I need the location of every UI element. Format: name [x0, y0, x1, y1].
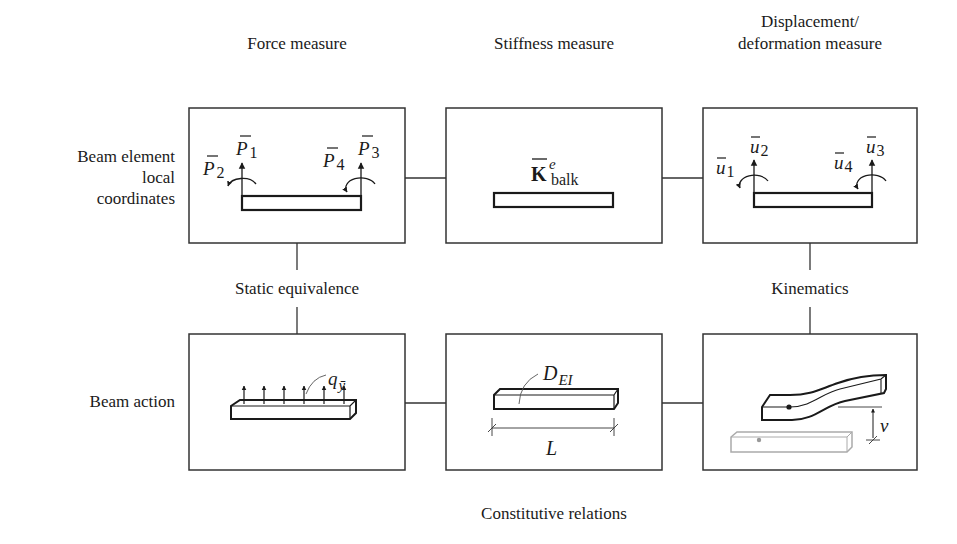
beam-element-icon	[242, 196, 361, 210]
symbol-p2: P2	[202, 158, 225, 181]
beam-element-icon	[494, 193, 613, 207]
deformed-beam-icon	[762, 375, 886, 420]
force-action-figure: qȳ	[231, 368, 356, 419]
beam-3d-icon	[494, 389, 618, 409]
force-local-figure: P1 P2 P3 P4	[202, 136, 380, 210]
beam-element-icon	[754, 193, 872, 207]
symbol-length-l: L	[545, 437, 557, 459]
symbol-k-sup: e	[549, 156, 556, 172]
symbol-d-ei: DEI	[542, 362, 574, 388]
symbol-k-balk: K	[531, 163, 547, 185]
displacement-local-figure: u1 u2 u3 u4	[716, 136, 886, 207]
beam-3d-icon	[231, 400, 356, 419]
symbol-k-sub: balk	[551, 171, 579, 188]
symbol-p1: P1	[235, 138, 258, 161]
stiffness-action-figure: DEI L	[488, 362, 618, 459]
symbol-u2: u2	[750, 136, 769, 159]
undeformed-beam-icon	[731, 432, 852, 452]
displacement-action-figure: v	[731, 375, 889, 452]
symbol-u4: u4	[834, 152, 853, 175]
symbol-u1: u1	[716, 157, 735, 180]
stiffness-local-figure: K e balk	[494, 156, 613, 207]
symbol-v: v	[880, 415, 889, 436]
dimension-line-icon	[488, 418, 618, 436]
symbol-p3: P3	[357, 138, 380, 161]
symbol-p4: P4	[322, 150, 345, 173]
diagram-canvas: P1 P2 P3 P4 K e balk u1 u2 u3 u4	[0, 0, 957, 544]
symbol-q: qȳ	[328, 368, 346, 393]
symbol-u3: u3	[866, 136, 885, 159]
leader-line	[306, 375, 326, 394]
box-displacement-local	[703, 108, 917, 243]
